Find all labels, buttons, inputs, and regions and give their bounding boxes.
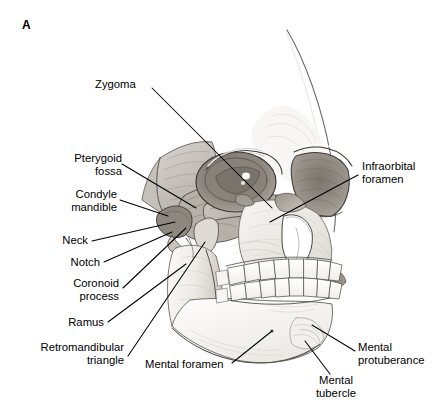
leader-mental-tubercle <box>305 341 330 374</box>
leader-notch <box>104 232 172 262</box>
label-pterygoid-fossa: Pterygoid fossa <box>0 152 122 179</box>
leader-mental-foramen <box>232 331 272 363</box>
label-mental-foramen: Mental foramen <box>145 358 224 371</box>
label-infraorbital-foramen: Infraorbital foramen <box>362 160 415 187</box>
label-retromandibular-triangle: Retromandibular triangle <box>0 341 124 368</box>
leader-mental-protuberance <box>312 325 355 351</box>
label-mental-tubercle: Mental tubercle <box>298 374 374 401</box>
leader-pterygoid-fossa <box>122 164 196 208</box>
label-zygoma: Zygoma <box>95 78 136 91</box>
leader-ramus <box>108 264 186 322</box>
leader-condyle-mandible <box>120 200 168 216</box>
leader-neck <box>92 222 175 241</box>
label-ramus: Ramus <box>0 316 104 329</box>
label-mental-protuberance: Mental protuberance <box>358 341 425 368</box>
panel-letter: A <box>22 18 31 32</box>
leader-zygoma <box>152 88 272 208</box>
skull-figure: A Zygoma Pterygoid fossa Condyle mandibl… <box>0 0 444 417</box>
label-neck: Neck <box>0 234 88 247</box>
label-condyle-mandible: Condyle mandible <box>0 188 117 215</box>
leader-coronoid-process <box>123 228 186 288</box>
label-notch: Notch <box>0 256 100 269</box>
leader-infraorbital-foramen <box>270 175 358 222</box>
label-coronoid-process: Coronoid process <box>0 277 119 304</box>
